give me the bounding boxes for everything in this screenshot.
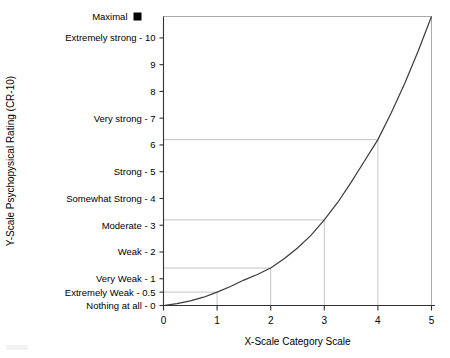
corner-artifact bbox=[6, 345, 28, 350]
psychophysical-rating-chart: Nothing at all - 0Extremely Weak - 0.5Ve… bbox=[0, 0, 450, 358]
y-tick-label-9: 8 bbox=[150, 86, 155, 97]
y-tick-label-6: Strong - 5 bbox=[114, 166, 156, 177]
y-tick-label-3: Weak - 2 bbox=[118, 246, 156, 257]
x-axis-title: X-Scale Category Scale bbox=[244, 336, 351, 347]
y-tick-label-7: 6 bbox=[150, 139, 155, 150]
y-tick-label-4: Moderate - 3 bbox=[102, 220, 156, 231]
y-tick-label-12: Maximal bbox=[92, 11, 127, 22]
y-tick-label-0: Nothing at all - 0 bbox=[86, 300, 155, 311]
maximal-marker-icon bbox=[134, 13, 142, 21]
x-tick-label-4: 4 bbox=[375, 315, 381, 326]
x-tick-label-1: 1 bbox=[214, 315, 220, 326]
y-tick-label-2: Very Weak - 1 bbox=[96, 273, 156, 284]
y-tick-label-11: Extremely strong - 10 bbox=[65, 32, 155, 43]
chart-container: Nothing at all - 0Extremely Weak - 0.5Ve… bbox=[0, 0, 450, 358]
y-tick-label-1: Extremely Weak - 0.5 bbox=[65, 287, 156, 298]
y-tick-label-10: 9 bbox=[150, 59, 155, 70]
x-tick-label-5: 5 bbox=[429, 315, 435, 326]
x-tick-label-3: 3 bbox=[322, 315, 328, 326]
x-tick-label-0: 0 bbox=[161, 315, 167, 326]
y-axis-title: Y-Scale Psychopysical Rating (CR-10) bbox=[5, 76, 16, 246]
y-tick-label-5: Somewhat Strong - 4 bbox=[66, 193, 155, 204]
x-tick-label-2: 2 bbox=[268, 315, 274, 326]
y-tick-label-8: Very strong - 7 bbox=[94, 113, 156, 124]
chart-background bbox=[0, 0, 450, 358]
